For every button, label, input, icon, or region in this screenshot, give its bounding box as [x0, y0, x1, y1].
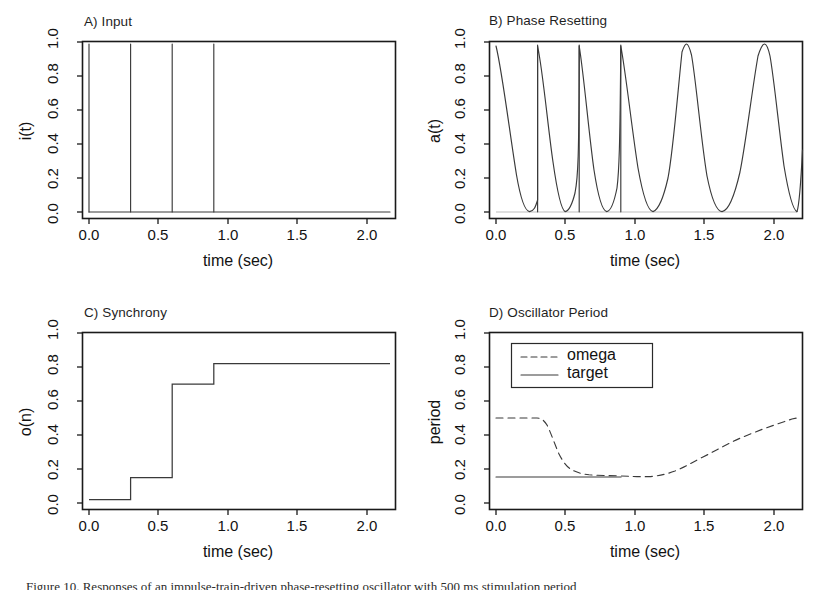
panel-b-ytick-1: 0.2 — [451, 159, 468, 199]
panel-a-ytick-4: 0.8 — [44, 54, 61, 94]
panel-a-ytick-0: 0.0 — [44, 194, 61, 234]
panel-a-ylabel: i(t) — [17, 101, 35, 161]
panel-a-title: A) Input — [84, 14, 132, 29]
panel-c-ytick-2: 0.4 — [44, 415, 61, 455]
panel-a-ytick-3: 0.6 — [44, 89, 61, 129]
panel-b-title: B) Phase Resetting — [489, 13, 607, 28]
panel-a-xtick-2: 1.0 — [198, 226, 258, 243]
panel-c-ytick-1: 0.2 — [44, 450, 61, 490]
legend-label-omega: omega — [567, 346, 616, 364]
panel-c-ytick-4: 0.8 — [44, 345, 61, 385]
panel-b-ytick-2: 0.4 — [451, 124, 468, 164]
panel-b-xtick-1: 0.5 — [535, 226, 595, 243]
panel-c-xtick-3: 1.5 — [267, 517, 327, 534]
panel-b-ytick-5: 1.0 — [451, 19, 468, 59]
panel-d-ytick-2: 0.4 — [451, 415, 468, 455]
legend-label-target: target — [567, 364, 608, 382]
panel-b-xtick-2: 1.0 — [605, 226, 665, 243]
panel-c-synchrony: C) Synchrony o(n) 0.0 0.2 0.4 0.6 0.8 1.… — [0, 295, 417, 585]
figure-container: A) Input i(t) 0.0 0.2 0.4 0.6 0.8 1.0 — [0, 0, 834, 597]
panel-a-xtick-1: 0.5 — [128, 226, 188, 243]
panel-d-xtick-2: 1.0 — [605, 517, 665, 534]
panel-d-title: D) Oscillator Period — [489, 305, 608, 320]
panel-a-ytick-2: 0.4 — [44, 124, 61, 164]
panel-d-xtick-4: 2.0 — [744, 517, 804, 534]
panel-c-ytick-3: 0.6 — [44, 380, 61, 420]
panel-c-xtick-0: 0.0 — [59, 517, 119, 534]
panel-b-ytick-4: 0.8 — [451, 54, 468, 94]
panel-d-xlabel: time (sec) — [555, 543, 735, 561]
panel-d-xtick-0: 0.0 — [466, 517, 526, 534]
panel-d-xtick-3: 1.5 — [674, 517, 734, 534]
panel-d-ytick-1: 0.2 — [451, 450, 468, 490]
panel-d-oscillator-period: D) Oscillator Period period 0.0 0.2 0.4 … — [417, 295, 834, 585]
panel-d-ytick-3: 0.6 — [451, 380, 468, 420]
panel-d-ylabel: period — [426, 382, 444, 462]
panel-a-input: A) Input i(t) 0.0 0.2 0.4 0.6 0.8 1.0 — [0, 0, 417, 298]
panel-a-xtick-3: 1.5 — [267, 226, 327, 243]
panel-d-xtick-1: 0.5 — [535, 517, 595, 534]
panel-d-ytick-0: 0.0 — [451, 485, 468, 525]
panel-a-xtick-0: 0.0 — [59, 226, 119, 243]
panel-b-ytick-0: 0.0 — [451, 194, 468, 234]
panel-a-ytick-5: 1.0 — [44, 19, 61, 59]
panel-b-ytick-3: 0.6 — [451, 89, 468, 129]
panel-d-ytick-4: 0.8 — [451, 345, 468, 385]
panel-a-ytick-1: 0.2 — [44, 159, 61, 199]
panel-c-xlabel: time (sec) — [148, 543, 328, 561]
panel-b-phase-resetting: B) Phase Resetting a(t) 0.0 0.2 0.4 0.6 … — [417, 0, 834, 298]
panel-c-xtick-1: 0.5 — [128, 517, 188, 534]
panel-a-xlabel: time (sec) — [148, 252, 328, 270]
panel-c-ytick-5: 1.0 — [44, 310, 61, 350]
panel-b-ylabel: a(t) — [426, 101, 444, 161]
panel-d-ytick-5: 1.0 — [451, 310, 468, 350]
panel-c-ylabel: o(n) — [17, 392, 35, 452]
panel-b-xtick-4: 2.0 — [744, 226, 804, 243]
panel-a-xtick-4: 2.0 — [337, 226, 397, 243]
figure-caption: Figure 10. Responses of an impulse-train… — [26, 578, 816, 590]
panel-b-xtick-0: 0.0 — [466, 226, 526, 243]
panel-b-xtick-3: 1.5 — [674, 226, 734, 243]
panel-c-ytick-0: 0.0 — [44, 485, 61, 525]
panel-d-plot — [417, 295, 834, 585]
panel-c-xtick-2: 1.0 — [198, 517, 258, 534]
panel-c-title: C) Synchrony — [84, 305, 167, 320]
panel-b-xlabel: time (sec) — [555, 252, 735, 270]
panel-c-xtick-4: 2.0 — [337, 517, 397, 534]
panel-c-plot — [0, 295, 417, 585]
